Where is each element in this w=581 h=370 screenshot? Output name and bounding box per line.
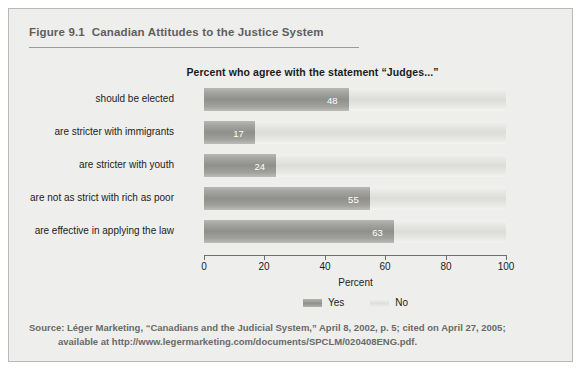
x-axis-tick <box>325 256 326 260</box>
source-line-2: available at http://www.legermarketing.c… <box>29 335 557 349</box>
bar-segment-yes <box>204 220 394 243</box>
bar-row: 17 <box>204 121 506 144</box>
category-label: are effective in applying the law <box>0 225 174 236</box>
bars-container: 48 17 24 55 63 <box>204 87 506 255</box>
x-axis-tick <box>446 256 447 260</box>
bar-value-label: 55 <box>348 193 359 204</box>
x-axis-line <box>204 255 507 256</box>
bar-value-label: 17 <box>233 127 244 138</box>
bar-row: 48 <box>204 88 506 111</box>
x-axis-tick-label: 60 <box>379 261 390 272</box>
category-label: should be elected <box>0 93 174 104</box>
category-label: are not as strict with rich as poor <box>0 192 174 203</box>
category-label: are stricter with immigrants <box>0 126 174 137</box>
x-axis-tick-label: 100 <box>498 261 515 272</box>
chart-plot-area: should be elected are stricter with immi… <box>9 87 574 267</box>
bar-value-label: 48 <box>327 94 338 105</box>
legend-swatch-no-icon <box>370 299 389 307</box>
figure-number: Figure 9.1 <box>29 26 85 38</box>
x-axis-tick <box>264 256 265 260</box>
category-label: are stricter with youth <box>0 159 174 170</box>
bar-row: 55 <box>204 187 506 210</box>
legend-label-yes: Yes <box>328 297 344 308</box>
x-axis-tick-label: 20 <box>258 261 269 272</box>
chart-title-text: Percent who agree with the statement “Ju… <box>144 66 438 78</box>
legend-item-yes: Yes <box>303 297 344 308</box>
x-axis-tick <box>204 256 205 260</box>
x-axis-tick-label: 80 <box>440 261 451 272</box>
bar-row: 24 <box>204 154 506 177</box>
legend-swatch-yes-icon <box>303 299 322 307</box>
heading-divider <box>29 47 359 48</box>
source-note: Source: Léger Marketing, “Canadians and … <box>29 321 557 348</box>
figure-heading: Figure 9.1Canadian Attitudes to the Just… <box>29 26 324 38</box>
chart-legend: Yes No <box>204 297 507 308</box>
bar-segment-yes <box>204 154 276 177</box>
figure-panel: Figure 9.1Canadian Attitudes to the Just… <box>8 8 573 362</box>
source-line-1: Source: Léger Marketing, “Canadians and … <box>29 321 557 335</box>
x-axis-tick-label: 0 <box>201 261 207 272</box>
bar-row: 63 <box>204 220 506 243</box>
figure-heading-text: Canadian Attitudes to the Justice System <box>92 26 324 38</box>
x-axis-tick <box>385 256 386 260</box>
legend-item-no: No <box>370 297 408 308</box>
bar-segment-yes <box>204 187 370 210</box>
bar-segment-yes <box>204 121 255 144</box>
legend-label-no: No <box>395 297 408 308</box>
x-axis-tick <box>506 256 507 260</box>
x-axis-tick-label: 40 <box>319 261 330 272</box>
bar-value-label: 24 <box>254 160 265 171</box>
bar-value-label: 63 <box>372 226 383 237</box>
chart-title: Percent who agree with the statement “Ju… <box>9 66 574 78</box>
x-axis-title: Percent <box>204 277 507 288</box>
